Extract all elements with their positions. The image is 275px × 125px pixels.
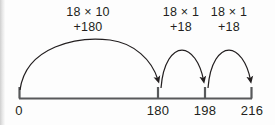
- jump-label-1: 18 × 10 +180: [38, 5, 138, 35]
- jump-arc-180-to-198: [161, 50, 204, 88]
- tick-label-180: 180: [135, 103, 181, 119]
- tick-label-0: 0: [0, 103, 38, 119]
- tick-label-198: 198: [182, 103, 228, 119]
- jump-3-operation: 18 × 1: [199, 5, 259, 20]
- jump-3-addend: +18: [199, 20, 259, 35]
- jump-arc-198-to-216: [208, 50, 251, 88]
- jump-label-3: 18 × 1 +18: [199, 5, 259, 35]
- jump-1-operation: 18 × 10: [38, 5, 138, 20]
- number-line-figure: 18 × 10 +180 18 × 1 +18 18 × 1 +18 0 180…: [0, 0, 275, 125]
- jump-1-addend: +180: [38, 20, 138, 35]
- tick-label-216: 216: [229, 103, 275, 119]
- jump-arc-0-to-180: [20, 39, 158, 90]
